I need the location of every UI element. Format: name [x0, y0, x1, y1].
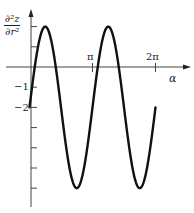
x-axis-arrow-icon	[183, 65, 191, 70]
y-axis-label-numerator: ∂²z	[4, 14, 20, 26]
x-tick-label-2pi: 2π	[146, 52, 159, 62]
chart: ∂²z ∂r² π 2π α −1 −2	[0, 0, 194, 213]
plot-area	[0, 0, 194, 213]
y-axis-label: ∂²z ∂r²	[4, 14, 20, 37]
y-tick-label-minus-1: −1	[14, 82, 29, 92]
y-tick-label-minus-2: −2	[14, 103, 29, 113]
y-axis-label-denominator: ∂r²	[4, 26, 20, 37]
x-axis-label: α	[169, 73, 176, 84]
y-axis-arrow-icon	[29, 9, 34, 17]
x-tick-label-pi: π	[87, 52, 94, 62]
